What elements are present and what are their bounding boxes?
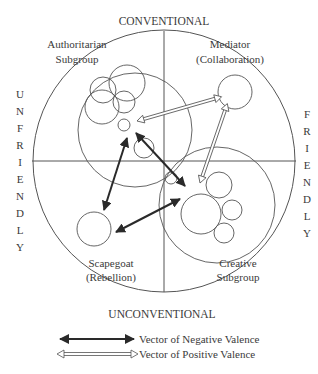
creative-cluster [159, 147, 275, 263]
label-unconventional: UNCONVENTIONAL [108, 308, 215, 320]
label-mediator-2: (Collaboration) [196, 53, 264, 66]
label-unfriendly: U N F R I E N D L Y [16, 88, 24, 253]
label-friendly: F R I E N D L Y [303, 108, 311, 239]
label-creative-2: Subgroup [217, 271, 260, 283]
svg-text:D: D [16, 207, 24, 219]
authoritarian-cluster [78, 65, 192, 187]
svg-text:L: L [304, 210, 311, 222]
label-scapegoat-1: Scapegoat [88, 257, 133, 269]
positive-arrows [136, 93, 231, 184]
negative-arrows [104, 133, 185, 232]
legend-positive-label: Vector of Positive Valence [139, 348, 255, 360]
label-authoritarian-1: Authoritarian [47, 38, 107, 50]
legend-positive-arrow [57, 350, 138, 358]
svg-text:U: U [16, 88, 24, 100]
mediator-circle [218, 75, 252, 109]
svg-text:I: I [305, 142, 309, 154]
svg-text:Y: Y [16, 241, 24, 253]
svg-text:F: F [304, 108, 310, 120]
svg-text:R: R [303, 125, 311, 137]
label-creative-1: Creative [219, 257, 256, 269]
svg-text:N: N [16, 190, 24, 202]
svg-text:D: D [303, 193, 311, 205]
svg-text:I: I [18, 156, 22, 168]
svg-text:R: R [16, 139, 24, 151]
svg-text:N: N [16, 105, 24, 117]
legend: Vector of Negative Valence Vector of Pos… [57, 333, 260, 360]
svg-text:E: E [17, 173, 24, 185]
group-dynamics-diagram: CONVENTIONAL UNCONVENTIONAL U N F R I E … [0, 0, 318, 374]
label-mediator-1: Mediator [210, 38, 251, 50]
svg-text:N: N [303, 176, 311, 188]
label-scapegoat-2: (Rebellion) [86, 271, 136, 284]
label-authoritarian-2: Subgroup [56, 53, 99, 65]
svg-text:F: F [17, 122, 23, 134]
scapegoat-circle [77, 212, 111, 246]
svg-text:L: L [17, 224, 24, 236]
legend-negative-label: Vector of Negative Valence [139, 333, 260, 345]
label-conventional: CONVENTIONAL [119, 15, 210, 27]
svg-text:Y: Y [303, 227, 311, 239]
svg-text:E: E [304, 159, 311, 171]
